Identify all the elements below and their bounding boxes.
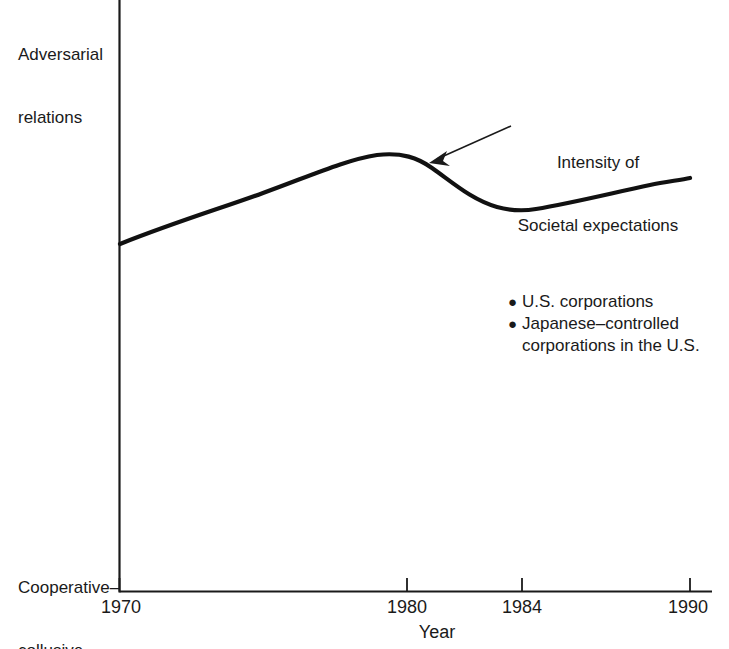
chart-legend: ● U.S. corporations ● Japanese–controlle… [508,291,700,357]
legend-item-label-line1: Japanese–controlled [522,314,679,333]
annotation-arrowhead-icon [429,151,450,166]
y-axis-bottom-label-line2: collusive [18,640,119,649]
y-axis-top-label-line2: relations [18,107,103,128]
legend-item-label-line2: corporations in the U.S. [522,336,700,355]
legend-item-us-corporations: ● U.S. corporations [508,291,700,313]
x-tick-label-1990: 1990 [668,597,708,618]
y-axis-top-label-line1: Adversarial [18,44,103,65]
y-axis-top-label: Adversarial relations [18,2,103,170]
chart-annotation: Intensity of Societal expectations [518,110,679,278]
x-tick-label-1970: 1970 [101,597,141,618]
legend-item-label: Japanese–controlledcorporations in the U… [522,313,700,357]
legend-bullet-icon: ● [508,313,522,335]
chart-annotation-line2: Societal expectations [518,215,679,236]
legend-item-label: U.S. corporations [522,291,653,313]
legend-bullet-icon: ● [508,291,522,313]
legend-item-japanese-controlled-corporations: ● Japanese–controlledcorporations in the… [508,313,700,357]
x-axis-title: Year [419,622,455,643]
annotation-leader-line [437,126,511,159]
y-axis-bottom-label-line1: Cooperative– [18,577,119,598]
x-tick-label-1984: 1984 [502,597,542,618]
x-tick-label-1980: 1980 [387,597,427,618]
chart-figure: Adversarial relations Cooperative– collu… [0,0,729,649]
chart-annotation-line1: Intensity of [518,152,679,173]
y-axis-bottom-label: Cooperative– collusive relations [18,535,119,649]
